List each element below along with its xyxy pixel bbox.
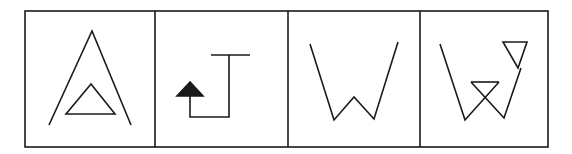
panel-2-figure — [177, 55, 250, 117]
figure-sequence-diagram — [0, 0, 572, 154]
panel-dividers — [155, 11, 420, 147]
panel-3-stroke-1 — [310, 42, 398, 120]
panel-1-stroke-2 — [66, 84, 115, 114]
panel-3-figure — [310, 42, 398, 120]
panel-1-stroke-1 — [49, 31, 131, 125]
panel-4-stroke-4 — [503, 42, 527, 68]
panel-2-stroke-2 — [190, 55, 229, 117]
outer-frame — [25, 11, 548, 147]
panel-1-figure — [49, 31, 131, 125]
panel-4-stroke-2 — [471, 68, 521, 118]
panel-4-figure — [440, 42, 527, 120]
panel-2-stroke-3 — [177, 82, 203, 96]
